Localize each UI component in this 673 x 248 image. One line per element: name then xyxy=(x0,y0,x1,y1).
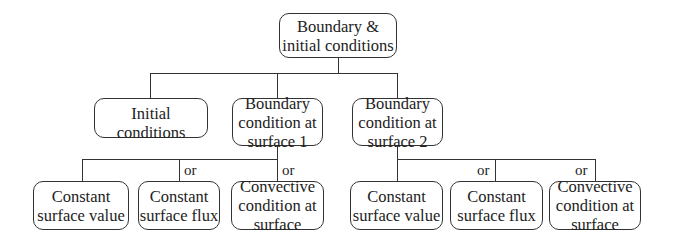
g2-c3-line-3: surface xyxy=(571,215,619,234)
surface1-line-1: Boundary xyxy=(245,94,310,113)
g2-c2-line-2: surface flux xyxy=(457,206,535,225)
g2-c2-line-1: Constant xyxy=(467,187,526,206)
connector-g2-child2 xyxy=(495,159,496,181)
node-boundary-surface-1: Boundary condition at surface 1 xyxy=(232,98,323,146)
root-node-boundary-initial-conditions: Boundary & initial conditions xyxy=(279,13,397,58)
connector-surface1-stem xyxy=(277,146,278,160)
g2-c1-line-2: surface value xyxy=(353,206,441,225)
g2-c1-line-1: Constant xyxy=(367,187,426,206)
node-boundary-surface-2: Boundary condition at surface 2 xyxy=(352,98,443,146)
connector-g1-child1 xyxy=(82,159,83,181)
g2-c3-line-2: condition at xyxy=(556,196,634,215)
connector-g2-child1 xyxy=(397,159,398,181)
node-g1-convective-condition: Convective condition at surface xyxy=(231,181,324,230)
g1-c3-line-3: surface xyxy=(254,215,302,234)
g1-c2-line-1: Constant xyxy=(150,187,209,206)
node-g1-constant-surface-flux: Constant surface flux xyxy=(138,181,220,230)
g1-c2-line-2: surface flux xyxy=(140,206,218,225)
surface2-line-1: Boundary xyxy=(365,94,430,113)
g1-c1-line-2: surface value xyxy=(37,206,125,225)
or-label-g1-1: or xyxy=(184,163,197,178)
root-line-1: Boundary & xyxy=(297,17,379,36)
connector-root-stem xyxy=(338,58,339,74)
g1-c3-line-1: Convective xyxy=(240,177,315,196)
connector-surface2-stem xyxy=(397,146,398,160)
node-g2-constant-surface-flux: Constant surface flux xyxy=(450,181,543,230)
connector-group2-bar xyxy=(397,159,596,160)
or-label-g2-1: or xyxy=(477,163,490,178)
surface1-line-2: condition at xyxy=(238,113,316,132)
connector-to-initial xyxy=(150,73,151,98)
root-line-2: initial conditions xyxy=(282,36,393,55)
or-label-g2-2: or xyxy=(575,163,588,178)
connector-g1-child2 xyxy=(179,159,180,181)
g1-c3-line-2: condition at xyxy=(238,196,316,215)
initial-conditions-label: Initial conditions xyxy=(95,104,207,142)
node-g1-constant-surface-value: Constant surface value xyxy=(33,181,129,230)
g2-c3-line-1: Convective xyxy=(557,177,632,196)
surface2-line-2: condition at xyxy=(358,113,436,132)
connector-level2-bar xyxy=(150,73,398,74)
node-initial-conditions: Initial conditions xyxy=(94,98,208,138)
node-g2-convective-condition: Convective condition at surface xyxy=(549,181,641,230)
or-label-g1-2: or xyxy=(282,163,295,178)
g1-c1-line-1: Constant xyxy=(52,187,111,206)
node-g2-constant-surface-value: Constant surface value xyxy=(350,181,443,230)
